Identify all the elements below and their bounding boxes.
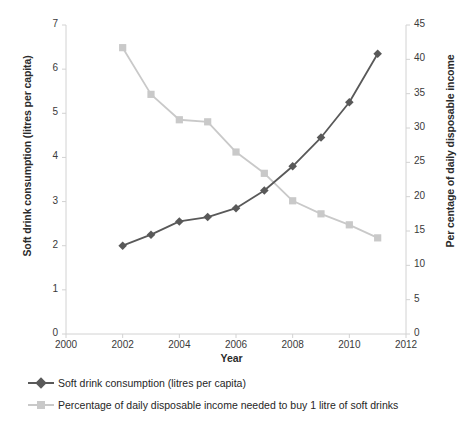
chart-container: 76543210 454035302520151050 200020022004… <box>0 0 463 430</box>
left-axis-title: Soft drink consumption (litres per capit… <box>21 36 33 276</box>
x-tick-2010: 2010 <box>329 339 369 350</box>
axis-tick-marks <box>62 25 410 338</box>
left-tick-0: 0 <box>36 327 58 338</box>
x-axis-title: Year <box>0 352 463 364</box>
right-tick-20: 20 <box>414 190 438 201</box>
legend-label: Soft drink consumption (litres per capit… <box>58 377 246 389</box>
right-tick-40: 40 <box>414 52 438 63</box>
x-tick-2002: 2002 <box>103 339 143 350</box>
x-tick-2006: 2006 <box>216 339 256 350</box>
right-axis-title: Per centage of daily disposable income <box>444 31 456 271</box>
right-tick-15: 15 <box>414 224 438 235</box>
x-tick-2000: 2000 <box>46 339 86 350</box>
legend-item-0[interactable]: Soft drink consumption (litres per capit… <box>28 372 458 394</box>
right-tick-0: 0 <box>414 327 438 338</box>
chart-legend: Soft drink consumption (litres per capit… <box>28 372 458 416</box>
left-tick-2: 2 <box>36 239 58 250</box>
right-tick-10: 10 <box>414 258 438 269</box>
legend-symbol-diamond <box>35 377 46 388</box>
right-tick-5: 5 <box>414 293 438 304</box>
series-soft-drink-consumption <box>118 49 382 250</box>
left-tick-1: 1 <box>36 283 58 294</box>
right-tick-45: 45 <box>414 18 438 29</box>
legend-symbol-square <box>37 401 45 409</box>
left-tick-5: 5 <box>36 106 58 117</box>
left-tick-7: 7 <box>36 18 58 29</box>
right-tick-25: 25 <box>414 155 438 166</box>
legend-marker-diamond-icon <box>28 376 54 390</box>
left-tick-6: 6 <box>36 62 58 73</box>
x-tick-2004: 2004 <box>159 339 199 350</box>
series-percentage-income <box>119 44 381 241</box>
legend-label: Percentage of daily disposable income ne… <box>58 399 398 411</box>
left-tick-3: 3 <box>36 195 58 206</box>
x-tick-2008: 2008 <box>273 339 313 350</box>
right-tick-30: 30 <box>414 121 438 132</box>
right-tick-35: 35 <box>414 87 438 98</box>
chart-plot-area <box>0 0 463 430</box>
x-tick-2012: 2012 <box>386 339 426 350</box>
legend-marker-square-icon <box>28 398 54 412</box>
left-tick-4: 4 <box>36 150 58 161</box>
legend-item-1[interactable]: Percentage of daily disposable income ne… <box>28 394 458 416</box>
